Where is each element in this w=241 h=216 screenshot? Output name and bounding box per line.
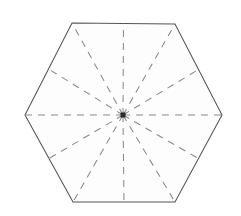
center-point-marker (121, 113, 126, 118)
hexagon-symmetry-figure (0, 0, 241, 216)
figure-stage (0, 0, 241, 216)
center-marker-group (121, 113, 126, 118)
